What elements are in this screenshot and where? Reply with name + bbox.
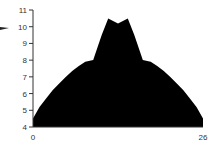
y-tick-label: 6 xyxy=(23,90,28,99)
y-tick-label: 8 xyxy=(23,56,28,65)
y-tick-label: 4 xyxy=(23,123,28,132)
x-tick-label-min: 0 xyxy=(31,133,36,142)
y-axis-ticks: 4567891011 xyxy=(18,6,33,132)
y-tick-label: 11 xyxy=(19,6,28,15)
y-tick-label: 10 xyxy=(18,23,27,32)
arrow-icon xyxy=(0,27,9,30)
y-tick-label: 7 xyxy=(23,73,28,82)
y-tick-label: 5 xyxy=(23,106,28,115)
y-tick-label: 9 xyxy=(23,39,28,48)
x-tick-label-max: 26 xyxy=(199,133,208,142)
area-fill xyxy=(33,18,203,127)
area-chart: 4567891011 0 26 xyxy=(0,0,211,149)
